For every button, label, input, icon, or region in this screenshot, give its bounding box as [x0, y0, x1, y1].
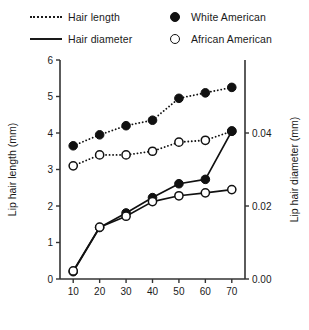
data-point-open [228, 185, 236, 193]
dotted-line-icon [30, 12, 62, 22]
chart-legend: Hair length White American Hair diameter… [30, 8, 292, 50]
data-point-open [96, 151, 104, 159]
plot-area: 01234560.000.020.0410203040506070Age (ye… [0, 52, 309, 302]
data-point-filled [175, 179, 184, 188]
data-point-open [69, 162, 77, 170]
data-point-filled [201, 89, 210, 98]
data-point-open [175, 192, 183, 200]
data-point-filled [227, 127, 236, 136]
filled-circle-icon [170, 12, 187, 22]
data-point-open [96, 223, 104, 231]
legend-label: African American [191, 33, 272, 45]
y-axis-left-tick-label: 3 [47, 164, 53, 175]
x-axis-tick-label: 50 [173, 286, 185, 297]
data-point-filled [69, 141, 78, 150]
y-axis-right-tick-label: 0.02 [252, 201, 272, 212]
legend-item-african-american: African American [170, 30, 295, 47]
data-point-filled [175, 94, 184, 103]
legend-item-hair-diameter: Hair diameter [30, 30, 160, 47]
y-axis-left-title: Lip hair length (mm) [6, 123, 18, 216]
legend-label: Hair length [68, 11, 120, 23]
data-point-open [148, 147, 156, 155]
x-axis-tick-label: 60 [200, 286, 212, 297]
legend-item-white-american: White American [170, 8, 295, 25]
open-circle-icon [170, 34, 187, 44]
data-point-filled [95, 131, 104, 140]
y-axis-left-tick-label: 4 [47, 128, 53, 139]
y-axis-left-tick-label: 2 [47, 201, 53, 212]
data-point-filled [227, 83, 236, 92]
legend-label: White American [191, 11, 266, 23]
series-markers-0 [69, 83, 236, 150]
y-axis-left-tick-label: 6 [47, 55, 53, 66]
x-axis-tick-label: 10 [68, 286, 80, 297]
chart-svg: 01234560.000.020.0410203040506070Age (ye… [0, 52, 309, 302]
figure: Hair length White American Hair diameter… [0, 0, 309, 330]
data-point-open [69, 267, 77, 275]
y-axis-right-tick-label: 0.04 [252, 128, 272, 139]
x-axis-tick-label: 30 [121, 286, 133, 297]
data-point-open [201, 189, 209, 197]
x-axis-tick-label: 20 [94, 286, 106, 297]
data-point-open [122, 151, 130, 159]
data-point-open [148, 198, 156, 206]
y-axis-left-tick-label: 0 [47, 274, 53, 285]
y-axis-left-tick-label: 5 [47, 91, 53, 102]
data-point-filled [122, 121, 131, 130]
x-axis-tick-label: 40 [147, 286, 159, 297]
data-point-open [122, 212, 130, 220]
legend-label: Hair diameter [68, 33, 132, 45]
data-point-filled [148, 116, 157, 125]
data-point-open [201, 136, 209, 144]
series-markers-3 [69, 185, 236, 275]
legend-item-hair-length: Hair length [30, 8, 160, 25]
y-axis-right-title: Lip hair diameter (mm) [288, 117, 300, 223]
solid-line-icon [30, 34, 62, 44]
y-axis-left-tick-label: 1 [47, 237, 53, 248]
series-markers-1 [69, 127, 236, 170]
data-point-open [175, 138, 183, 146]
data-point-filled [201, 175, 210, 184]
x-axis-tick-label: 70 [226, 286, 238, 297]
y-axis-right-tick-label: 0.00 [252, 274, 272, 285]
